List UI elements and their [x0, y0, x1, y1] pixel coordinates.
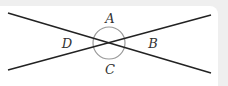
angle-label-d: D — [61, 36, 73, 51]
angle-label-c: C — [105, 62, 115, 77]
intersecting-lines-diagram: A B C D — [0, 0, 228, 86]
angle-label-a: A — [104, 11, 114, 26]
angle-label-b: B — [147, 36, 158, 51]
